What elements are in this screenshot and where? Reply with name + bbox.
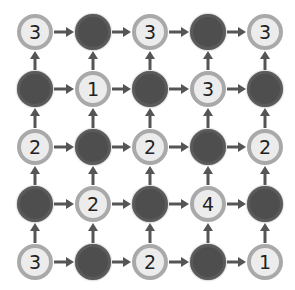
number-cell[interactable]: 1 [75, 71, 111, 107]
arrow-right-icon [54, 142, 74, 152]
arrow-up-icon [145, 166, 155, 185]
shaded-cell[interactable] [132, 186, 168, 222]
cell-number: 3 [202, 78, 214, 100]
arrow-up-icon [88, 108, 98, 128]
arrow-right-icon [227, 142, 246, 152]
arrow-up-icon [203, 108, 213, 128]
number-cell[interactable]: 2 [17, 129, 53, 165]
shaded-cell[interactable] [247, 71, 283, 107]
cell-number: 2 [87, 193, 99, 215]
arrow-right-icon [112, 142, 131, 152]
cell-number: 2 [144, 251, 156, 273]
arrow-up-icon [145, 223, 155, 243]
number-cell[interactable]: 4 [190, 186, 226, 222]
cell-number: 2 [144, 136, 156, 158]
puzzle-board: 3331322224321 [0, 0, 295, 290]
arrow-right-icon [54, 257, 74, 267]
arrow-right-icon [54, 84, 74, 94]
arrow-up-icon [30, 223, 40, 243]
arrow-up-icon [88, 51, 98, 70]
shaded-cell[interactable] [132, 71, 168, 107]
shaded-cell[interactable] [17, 71, 53, 107]
shaded-cell[interactable] [190, 14, 226, 50]
arrow-up-icon [260, 108, 270, 128]
cell-number: 2 [29, 136, 41, 158]
shaded-cell[interactable] [75, 244, 111, 280]
arrow-right-icon [169, 257, 189, 267]
cell-number: 1 [87, 78, 99, 100]
shaded-cell[interactable] [75, 129, 111, 165]
arrow-up-icon [203, 51, 213, 70]
arrow-up-icon [88, 223, 98, 243]
arrow-right-icon [54, 199, 74, 209]
number-cell[interactable]: 2 [132, 244, 168, 280]
number-cell[interactable]: 2 [247, 129, 283, 165]
cell-number: 3 [29, 251, 41, 273]
arrow-up-icon [30, 108, 40, 128]
number-cell[interactable]: 3 [247, 14, 283, 50]
arrow-up-icon [260, 223, 270, 243]
number-cell[interactable]: 1 [247, 244, 283, 280]
arrow-right-icon [169, 27, 189, 37]
number-cell[interactable]: 3 [17, 14, 53, 50]
number-cell[interactable]: 3 [190, 71, 226, 107]
arrow-up-icon [30, 166, 40, 185]
arrow-right-icon [54, 27, 74, 37]
number-cell[interactable]: 2 [132, 129, 168, 165]
arrow-right-icon [112, 27, 131, 37]
arrow-right-icon [227, 84, 246, 94]
cell-number: 3 [29, 21, 41, 43]
cell-number: 2 [259, 136, 271, 158]
arrow-right-icon [227, 257, 246, 267]
arrow-up-icon [260, 166, 270, 185]
shaded-cell[interactable] [190, 129, 226, 165]
arrow-right-icon [112, 257, 131, 267]
arrow-right-icon [227, 199, 246, 209]
cell-number: 4 [202, 193, 214, 215]
arrow-right-icon [112, 199, 131, 209]
shaded-cell[interactable] [247, 186, 283, 222]
number-cell[interactable]: 2 [75, 186, 111, 222]
cell-number: 3 [144, 21, 156, 43]
arrow-up-icon [30, 51, 40, 70]
arrow-right-icon [169, 84, 189, 94]
arrow-up-icon [203, 166, 213, 185]
number-cell[interactable]: 3 [17, 244, 53, 280]
arrow-up-icon [145, 51, 155, 70]
cell-number: 1 [259, 251, 271, 273]
shaded-cell[interactable] [190, 244, 226, 280]
number-cell[interactable]: 3 [132, 14, 168, 50]
shaded-cell[interactable] [75, 14, 111, 50]
arrow-up-icon [88, 166, 98, 185]
cell-number: 3 [259, 21, 271, 43]
arrow-up-icon [260, 51, 270, 70]
arrow-up-icon [203, 223, 213, 243]
arrow-right-icon [169, 142, 189, 152]
arrow-up-icon [145, 108, 155, 128]
shaded-cell[interactable] [17, 186, 53, 222]
arrow-right-icon [112, 84, 131, 94]
arrow-right-icon [227, 27, 246, 37]
arrow-right-icon [169, 199, 189, 209]
